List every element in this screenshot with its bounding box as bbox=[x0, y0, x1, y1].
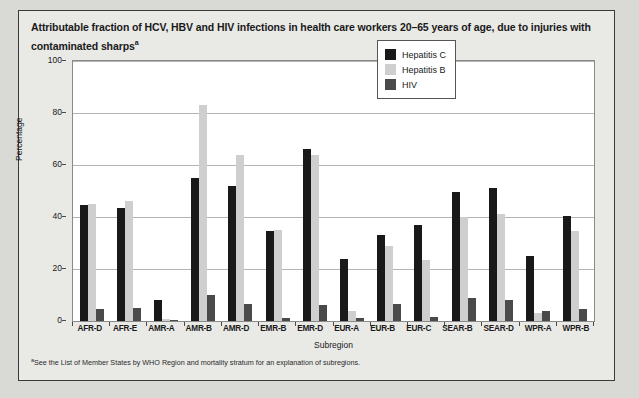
legend-label: Hepatitis C bbox=[402, 50, 446, 60]
bar-group bbox=[117, 61, 141, 321]
bar-group bbox=[191, 61, 215, 321]
bar-amr-b-hepatitis-c bbox=[191, 178, 199, 321]
bar-sear-b-hiv bbox=[468, 298, 476, 321]
x-axis-title: Subregion bbox=[72, 340, 595, 350]
legend-item-hepatitis-b: Hepatitis B bbox=[385, 62, 446, 77]
x-tick-label-amr-a: AMR-A bbox=[148, 324, 174, 333]
bar-group bbox=[266, 61, 290, 321]
bar-eur-c-hepatitis-c bbox=[414, 225, 422, 321]
bar-emr-b-hepatitis-b bbox=[274, 230, 282, 321]
figure-footnote: aSee the List of Member States by WHO Re… bbox=[31, 355, 591, 368]
y-tick-label: 100 bbox=[38, 55, 62, 65]
y-tick-mark bbox=[62, 320, 66, 321]
bar-sear-d-hepatitis-b bbox=[497, 214, 505, 321]
x-tick-label-eur-c: EUR-C bbox=[406, 324, 431, 333]
bar-amr-a-hepatitis-c bbox=[154, 300, 162, 321]
bar-eur-b-hiv bbox=[393, 304, 401, 321]
bar-eur-a-hepatitis-b bbox=[348, 311, 356, 321]
page-root: Attributable fraction of HCV, HBV and HI… bbox=[0, 0, 639, 398]
y-tick-mark bbox=[62, 268, 66, 269]
bar-amr-d-hepatitis-b bbox=[236, 155, 244, 321]
x-tick-label-afr-d: AFR-D bbox=[78, 324, 102, 333]
bar-wpr-b-hepatitis-b bbox=[571, 231, 579, 321]
y-tick-label: 80 bbox=[38, 107, 62, 117]
x-tick-label-emr-d: EMR-D bbox=[297, 324, 323, 333]
x-tick-label-wpr-b: WPR-B bbox=[563, 324, 590, 333]
legend-swatch-icon bbox=[385, 49, 396, 60]
bar-sear-d-hiv bbox=[505, 300, 513, 321]
bar-emr-d-hiv bbox=[319, 305, 327, 321]
bar-afr-d-hepatitis-c bbox=[80, 205, 88, 321]
bar-sear-d-hepatitis-c bbox=[489, 188, 497, 321]
bar-amr-d-hepatitis-c bbox=[228, 186, 236, 321]
bar-group bbox=[452, 61, 476, 321]
bar-group bbox=[340, 61, 364, 321]
x-tick-label-wpr-a: WPR-A bbox=[525, 324, 552, 333]
bar-wpr-b-hepatitis-c bbox=[563, 216, 571, 321]
y-tick-mark bbox=[62, 60, 66, 61]
y-axis: 020406080100 bbox=[39, 53, 66, 329]
bar-sear-b-hepatitis-c bbox=[452, 192, 460, 321]
bar-emr-b-hepatitis-c bbox=[266, 231, 274, 321]
chart-plot-wrapper: 020406080100 Percentage AFR-DAFR-EAMR-AA… bbox=[19, 11, 616, 382]
bar-group bbox=[80, 61, 104, 321]
bar-afr-e-hepatitis-c bbox=[117, 208, 125, 321]
bar-wpr-a-hepatitis-b bbox=[534, 313, 542, 321]
bar-emr-b-hiv bbox=[282, 318, 290, 321]
bar-amr-d-hiv bbox=[244, 304, 252, 321]
x-tick-label-eur-a: EUR-A bbox=[334, 324, 359, 333]
bar-group bbox=[154, 61, 178, 321]
bar-afr-e-hepatitis-b bbox=[125, 201, 133, 321]
bar-eur-a-hiv bbox=[356, 318, 364, 321]
y-tick-label: 60 bbox=[38, 159, 62, 169]
x-tick-label-eur-b: EUR-B bbox=[370, 324, 395, 333]
bar-wpr-b-hiv bbox=[579, 309, 587, 321]
bar-group bbox=[526, 61, 550, 321]
y-tick-mark bbox=[62, 112, 66, 113]
bar-group bbox=[563, 61, 587, 321]
bar-afr-e-hiv bbox=[133, 308, 141, 321]
legend-swatch-icon bbox=[385, 64, 396, 75]
bar-amr-a-hiv bbox=[170, 320, 178, 321]
bar-eur-c-hiv bbox=[430, 317, 438, 321]
bar-wpr-a-hepatitis-c bbox=[526, 256, 534, 321]
bar-amr-a-hepatitis-b bbox=[162, 319, 170, 321]
y-tick-mark bbox=[62, 164, 66, 165]
chart-legend: Hepatitis CHepatitis BHIV bbox=[377, 40, 456, 99]
bar-group bbox=[489, 61, 513, 321]
y-tick-mark bbox=[62, 216, 66, 217]
plot-area bbox=[72, 60, 595, 322]
bar-afr-d-hepatitis-b bbox=[88, 204, 96, 321]
legend-item-hiv: HIV bbox=[385, 77, 446, 92]
x-tick-label-sear-b: SEAR-B bbox=[442, 324, 472, 333]
figure-panel: Attributable fraction of HCV, HBV and HI… bbox=[18, 10, 615, 381]
bar-group bbox=[377, 61, 401, 321]
bar-eur-b-hepatitis-c bbox=[377, 235, 385, 321]
bar-sear-b-hepatitis-b bbox=[460, 217, 468, 321]
x-tick-label-amr-d: AMR-D bbox=[223, 324, 249, 333]
y-tick-label: 0 bbox=[38, 315, 62, 325]
x-tick-label-amr-b: AMR-B bbox=[186, 324, 212, 333]
legend-label: Hepatitis B bbox=[402, 65, 446, 75]
bar-eur-a-hepatitis-c bbox=[340, 259, 348, 321]
bar-group bbox=[414, 61, 438, 321]
x-tick-label-emr-b: EMR-B bbox=[260, 324, 286, 333]
y-tick-label: 20 bbox=[38, 263, 62, 273]
legend-label: HIV bbox=[402, 80, 417, 90]
bar-group bbox=[303, 61, 327, 321]
bar-wpr-a-hiv bbox=[542, 311, 550, 321]
bar-afr-d-hiv bbox=[96, 309, 104, 321]
bar-eur-b-hepatitis-b bbox=[385, 246, 393, 321]
y-axis-title: Percentage bbox=[14, 118, 24, 161]
bar-amr-b-hepatitis-b bbox=[199, 105, 207, 321]
x-tick-label-afr-e: AFR-E bbox=[113, 324, 137, 333]
bars-layer bbox=[73, 61, 594, 321]
bar-emr-d-hepatitis-c bbox=[303, 149, 311, 321]
bar-emr-d-hepatitis-b bbox=[311, 155, 319, 321]
bar-amr-b-hiv bbox=[207, 295, 215, 321]
legend-swatch-icon bbox=[385, 79, 396, 90]
x-axis-labels: AFR-DAFR-EAMR-AAMR-BAMR-DEMR-BEMR-DEUR-A… bbox=[72, 324, 595, 333]
x-tick-label-sear-d: SEAR-D bbox=[483, 324, 513, 333]
bar-eur-c-hepatitis-b bbox=[422, 260, 430, 321]
legend-item-hepatitis-c: Hepatitis C bbox=[385, 47, 446, 62]
